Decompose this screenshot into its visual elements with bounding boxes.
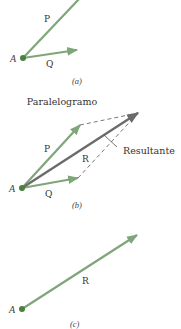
vector-p-label: P (44, 14, 50, 24)
caption-b: (b) (72, 200, 82, 210)
point-a-label: A (8, 183, 16, 194)
point-a-label: A (8, 304, 16, 315)
point-a-dot (19, 306, 25, 312)
vector-r-resultant-arrow (22, 113, 138, 188)
vector-q-label: Q (46, 59, 53, 69)
vector-r-label: R (82, 154, 89, 164)
caption-c: (c) (70, 319, 80, 329)
vector-r-label: R (82, 276, 89, 286)
point-a-dot (20, 55, 26, 61)
point-a-label: A (9, 53, 17, 64)
vector-q-label: Q (45, 189, 52, 199)
vector-q-arrow (23, 50, 77, 58)
point-a-dot (19, 185, 25, 191)
paralelogramo-title: Paralelogramo (27, 96, 98, 107)
panel-a: A P Q (a) (9, 0, 82, 86)
vector-p-arrow (23, 0, 80, 58)
panel-b: Paralelogramo A P Q R Resultante (b) (8, 96, 175, 210)
caption-a: (a) (72, 76, 82, 86)
vector-p-label: P (44, 144, 50, 154)
vector-r-arrow (22, 235, 137, 309)
vector-addition-diagram: A P Q (a) Paralelogramo A P Q R Resultan… (0, 0, 181, 329)
resultante-label: Resultante (123, 145, 175, 156)
resultant-leader-line (104, 135, 117, 147)
panel-c: A R (c) (8, 235, 137, 329)
